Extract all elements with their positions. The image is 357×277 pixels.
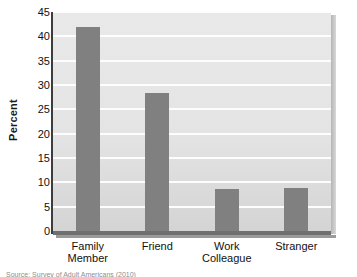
y-tick-label: 30 xyxy=(24,80,50,91)
bar-chart-figure: Percent 051015202530354045 FamilyMemberF… xyxy=(0,0,357,277)
source-caption: Source: Survey of Adult Americans (2010) xyxy=(6,270,357,277)
y-tick-label: 10 xyxy=(24,177,50,188)
x-tick-label-line2: Colleague xyxy=(192,252,262,264)
y-tick-label: 5 xyxy=(24,201,50,212)
x-tick-label: FamilyMember xyxy=(53,240,123,264)
y-tick-label: 25 xyxy=(24,104,50,115)
y-tick-label: 35 xyxy=(24,55,50,66)
y-tick-label: 20 xyxy=(24,128,50,139)
x-tick-label-line1: Work xyxy=(214,240,239,252)
bar-slot xyxy=(123,12,193,231)
x-tick-label-line1: Family xyxy=(72,240,104,252)
x-tick-label-line1: Stranger xyxy=(275,240,317,252)
y-axis-title: Percent xyxy=(0,0,26,240)
y-tick-label: 15 xyxy=(24,153,50,164)
x-tick-label: WorkColleague xyxy=(192,240,262,264)
bar[interactable] xyxy=(215,189,239,231)
bar[interactable] xyxy=(76,27,100,231)
y-axis-title-label: Percent xyxy=(7,99,19,141)
bars-group xyxy=(53,12,331,231)
x-tick-label-line1: Friend xyxy=(142,240,173,252)
x-tick-label: Stranger xyxy=(262,240,332,252)
x-axis-tick-labels: FamilyMemberFriendWorkColleagueStranger xyxy=(53,240,331,270)
y-tick-label: 40 xyxy=(24,31,50,42)
bar-slot xyxy=(192,12,262,231)
y-axis-tick-labels: 051015202530354045 xyxy=(24,6,50,231)
bar-slot xyxy=(53,12,123,231)
panel-right-edge-shadow xyxy=(331,15,336,234)
bar-slot xyxy=(262,12,332,231)
plot-area xyxy=(53,12,331,231)
x-axis-baseline-shadow xyxy=(56,235,336,238)
y-tick-label: 0 xyxy=(24,226,50,237)
y-tick-label: 45 xyxy=(24,7,50,18)
x-tick-label: Friend xyxy=(123,240,193,252)
x-tick-label-line2: Member xyxy=(53,252,123,264)
y-axis-spine xyxy=(51,12,53,234)
bar[interactable] xyxy=(145,93,169,231)
bar[interactable] xyxy=(284,188,308,231)
